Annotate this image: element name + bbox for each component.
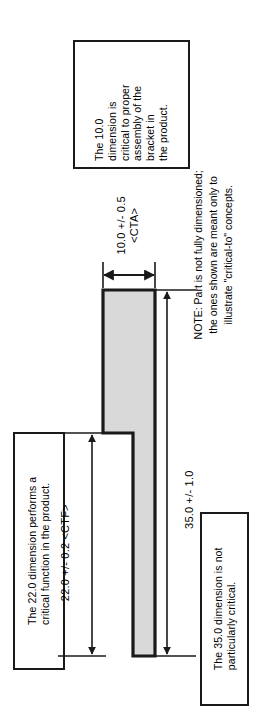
bracket-outline	[103, 290, 155, 656]
drawing-geometry	[0, 0, 274, 727]
engineering-drawing-canvas: The 10.0 dimension is critical to proper…	[0, 0, 274, 727]
